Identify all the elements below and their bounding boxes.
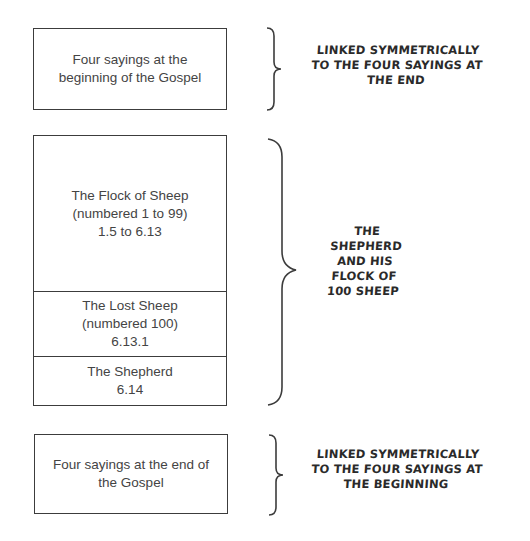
top-box: Four sayings at the beginning of the Gos… [33, 28, 227, 110]
bottom-box: Four sayings at the end of the Gospel [34, 434, 228, 514]
middle-stack: The Flock of Sheep (numbered 1 to 99) 1.… [33, 135, 227, 406]
bottom-brace-icon [267, 433, 291, 517]
bottom-box-label: Four sayings at the end of the Gospel [53, 456, 209, 492]
top-brace-icon [265, 26, 289, 112]
top-box-label: Four sayings at the beginning of the Gos… [59, 51, 202, 87]
middle-annotation: THE SHEPHERD AND HIS FLOCK OF 100 SHEEP [319, 224, 410, 299]
middle-brace-icon [266, 137, 300, 409]
shepherd-label: The Shepherd 6.14 [87, 363, 173, 399]
flock-of-sheep-cell: The Flock of Sheep (numbered 1 to 99) 1.… [34, 136, 226, 291]
flock-of-sheep-label: The Flock of Sheep (numbered 1 to 99) 1.… [71, 187, 188, 241]
bottom-annotation: LINKED SYMMETRICALLY TO THE FOUR SAYINGS… [290, 447, 503, 492]
lost-sheep-cell: The Lost Sheep (numbered 100) 6.13.1 [34, 291, 226, 356]
shepherd-cell: The Shepherd 6.14 [34, 356, 226, 405]
top-annotation: LINKED SYMMETRICALLY TO THE FOUR SAYINGS… [290, 43, 503, 88]
lost-sheep-label: The Lost Sheep (numbered 100) 6.13.1 [82, 297, 178, 351]
